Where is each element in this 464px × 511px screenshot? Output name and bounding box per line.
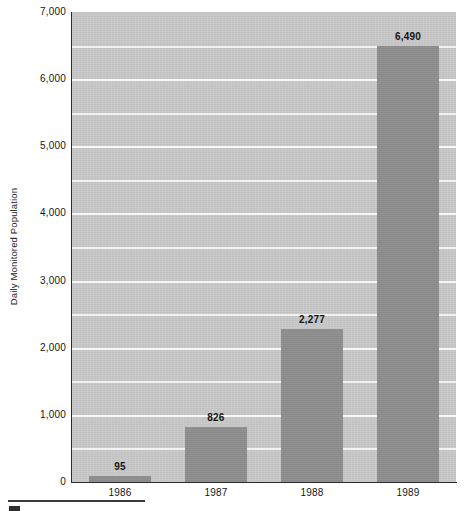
bar-value-label: 826: [176, 412, 256, 423]
bar-value-label: 6,490: [368, 31, 448, 42]
y-axis-tick-label: 5,000: [4, 140, 66, 151]
plot-area: [72, 12, 456, 482]
y-axis-tick-label: 0: [4, 476, 66, 487]
bar[interactable]: [185, 427, 247, 482]
y-axis-tick-label: 3,000: [4, 275, 66, 286]
x-axis-tick-label: 1988: [272, 487, 352, 498]
y-axis-tick-label: 7,000: [4, 6, 66, 17]
bar[interactable]: [281, 329, 343, 482]
x-axis-tick-label: 1986: [80, 487, 160, 498]
y-axis-tick-label: 2,000: [4, 342, 66, 353]
y-axis-tick-label: 1,000: [4, 409, 66, 420]
bar-value-label: 2,277: [272, 314, 352, 325]
y-axis-tick-label: 6,000: [4, 73, 66, 84]
bar[interactable]: [89, 476, 151, 482]
y-axis-tick-labels: 01,0002,0003,0004,0005,0006,0007,000: [0, 0, 66, 511]
y-axis-tick-label: 4,000: [4, 207, 66, 218]
x-axis-tick-label: 1987: [176, 487, 256, 498]
bar-value-label: 95: [80, 461, 160, 472]
bar[interactable]: [377, 46, 439, 482]
x-axis-tick-label: 1989: [368, 487, 448, 498]
x-axis-line: [71, 482, 457, 483]
footnote-mark: [9, 506, 20, 511]
footer-divider: [8, 500, 145, 502]
bar-chart-figure: Daily Monitored Population 01,0002,0003,…: [0, 0, 464, 511]
